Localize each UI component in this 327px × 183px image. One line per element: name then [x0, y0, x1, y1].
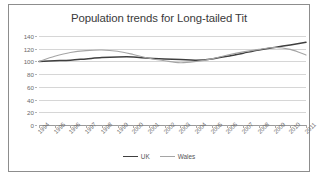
legend-swatch-icon	[160, 156, 175, 157]
y-axis-tick	[35, 125, 37, 126]
series-line-wales	[39, 47, 306, 62]
plot-area	[39, 36, 306, 125]
y-axis-tick	[35, 87, 37, 88]
legend-item-uk[interactable]: UK	[123, 153, 150, 160]
y-axis-tick	[35, 112, 37, 113]
y-axis-tick	[35, 100, 37, 101]
y-axis-tick	[35, 74, 37, 75]
series-lines	[39, 36, 306, 125]
y-axis-tick-label: 20	[27, 109, 34, 116]
chart-legend: UKWales	[9, 153, 309, 160]
y-axis-tick-label: 100	[24, 58, 34, 65]
y-axis-tick-label: 140	[24, 33, 34, 40]
y-axis-tick-label: 120	[24, 45, 34, 52]
y-axis-tick	[35, 61, 37, 62]
legend-label: UK	[141, 153, 150, 160]
series-line-uk	[39, 42, 306, 61]
y-axis-tick-label: 0	[31, 122, 34, 129]
y-axis-tick-label: 80	[27, 71, 34, 78]
y-axis-tick	[35, 36, 37, 37]
y-axis-tick	[35, 49, 37, 50]
y-axis-tick-label: 40	[27, 96, 34, 103]
legend-label: Wales	[178, 153, 196, 160]
legend-item-wales[interactable]: Wales	[160, 153, 196, 160]
chart-title: Population trends for Long-tailed Tit	[9, 12, 309, 24]
chart-card: Population trends for Long-tailed Tit 02…	[8, 4, 310, 172]
y-axis-tick-label: 60	[27, 83, 34, 90]
legend-swatch-icon	[123, 156, 138, 157]
y-axis-labels: 020406080100120140	[9, 36, 37, 125]
